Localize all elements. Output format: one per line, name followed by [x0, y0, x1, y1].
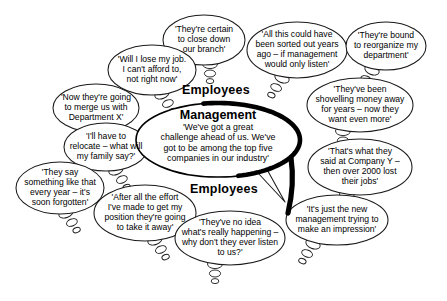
bubble-close-branch-tail-2 [204, 70, 215, 77]
bubble-after-all-the-effort-tail-2 [154, 244, 167, 255]
thought-bubble-diagram: 'They're certain to close down our branc… [0, 0, 447, 301]
management-heading: Management [180, 108, 256, 122]
bubble-relocate-family-tail-2 [115, 174, 128, 185]
bubble-they-say-every-year-tail-3 [72, 226, 81, 233]
bubble-lose-my-job-text: 'Will I lose my job. I can't afford to, … [101, 55, 203, 85]
bubble-sorted-out-years-ago-tail-3 [267, 91, 276, 98]
bubble-new-management-impression-tail-3 [298, 257, 307, 264]
bubble-reorganize-department-text: 'They're bound to reorganize my departme… [339, 31, 433, 61]
bubble-sorted-out-years-ago-text: 'All this could have been sorted out yea… [240, 30, 354, 70]
bubble-no-idea-whats-happening-text: 'They've no idea what's really happening… [168, 218, 292, 258]
bubble-they-say-every-year-tail-2 [65, 217, 78, 228]
bubble-shovelling-money-text: 'They've been shovelling money away for … [300, 85, 420, 125]
bubble-new-management-impression-tail-2 [301, 248, 314, 259]
bubble-merge-department-x-text: 'Now they're going to merge us with Depa… [46, 93, 146, 123]
employees-label-bottom: Employees [190, 182, 258, 196]
management-body-text: 'We've got a great challenge ahead of us… [127, 122, 309, 163]
bubble-company-y-text: 'That's what they said at Company Y – th… [301, 147, 419, 187]
bubble-no-idea-whats-happening-tail-3 [211, 279, 219, 284]
bubble-new-management-impression-text: 'It's just the new management trying to … [279, 205, 395, 235]
bubble-lose-my-job-tail-2 [161, 98, 174, 109]
bubble-no-idea-whats-happening-tail-2 [209, 270, 220, 277]
employees-label-top: Employees [182, 83, 250, 97]
bubble-close-branch-text: 'They're certain to close down our branc… [156, 25, 252, 55]
bubble-sorted-out-years-ago-tail-2 [270, 82, 283, 93]
